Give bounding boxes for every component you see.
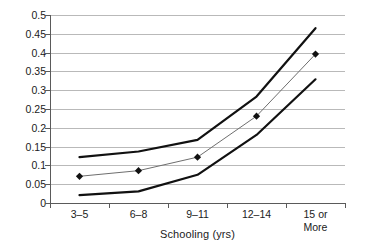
y-tick-label: 0.05 xyxy=(4,179,46,189)
gridline xyxy=(50,128,345,129)
x-tick-label: 6–8 xyxy=(109,208,168,221)
chart-container: 00.050.10.150.20.250.30.350.40.450.5 3–5… xyxy=(0,0,365,251)
y-tick-label: 0.1 xyxy=(4,160,46,170)
x-tick-label: 15 or More xyxy=(286,208,345,233)
x-tick-label: 9–11 xyxy=(168,208,227,221)
y-tick-mark xyxy=(45,34,50,35)
y-tick-mark xyxy=(45,90,50,91)
gridline xyxy=(50,53,345,54)
gridline xyxy=(50,147,345,148)
gridline xyxy=(50,165,345,166)
y-tick-label: 0.25 xyxy=(4,104,46,114)
y-tick-mark xyxy=(45,165,50,166)
y-tick-mark xyxy=(45,147,50,148)
gridline xyxy=(50,109,345,110)
y-tick-label: 0.15 xyxy=(4,142,46,152)
y-tick-label: 0.3 xyxy=(4,85,46,95)
y-tick-label: 0.4 xyxy=(4,48,46,58)
x-tick-label: 12–14 xyxy=(227,208,286,221)
y-tick-label: 0 xyxy=(4,198,46,208)
gridline xyxy=(50,71,345,72)
y-tick-label: 0.5 xyxy=(4,10,46,20)
plot-grid xyxy=(50,15,345,203)
gridline xyxy=(50,90,345,91)
y-tick-mark xyxy=(45,53,50,54)
y-axis-line xyxy=(50,15,51,204)
y-axis-labels: 00.050.10.150.20.250.30.350.40.450.5 xyxy=(0,0,46,251)
x-axis-title: Schooling (yrs) xyxy=(139,228,257,240)
y-tick-mark xyxy=(45,184,50,185)
y-tick-label: 0.45 xyxy=(4,29,46,39)
x-tick-label: 3–5 xyxy=(50,208,109,221)
y-tick-label: 0.35 xyxy=(4,66,46,76)
gridline xyxy=(50,34,345,35)
y-tick-mark xyxy=(45,109,50,110)
y-tick-mark xyxy=(45,71,50,72)
gridline xyxy=(50,15,345,16)
y-tick-mark xyxy=(45,128,50,129)
x-axis-line xyxy=(50,203,346,204)
y-tick-label: 0.2 xyxy=(4,123,46,133)
gridline xyxy=(50,184,345,185)
y-tick-mark xyxy=(45,15,50,16)
